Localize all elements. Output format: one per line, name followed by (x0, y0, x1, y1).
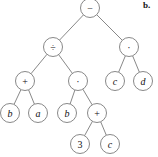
tree-edge (14, 90, 21, 105)
tree-node-variable: a (29, 104, 48, 123)
node-label: + (94, 108, 100, 119)
node-label: c (108, 139, 113, 150)
node-label: · (76, 76, 79, 87)
tree-node-number: 3 (71, 135, 90, 154)
tree-edge (85, 121, 93, 135)
tree-node-variable: c (101, 135, 120, 154)
tree-edge (31, 54, 47, 73)
node-label: · (127, 42, 130, 53)
tree-edge (83, 89, 92, 105)
panel-label: b. (143, 0, 150, 10)
node-label: c (113, 76, 118, 87)
expression-tree-diagram: −÷·+·cdbab+3c b. (0, 0, 158, 157)
tree-node-operator: + (16, 72, 35, 91)
node-label: + (22, 76, 28, 87)
tree-edge (119, 56, 126, 72)
tree-edge (29, 90, 35, 104)
node-label: 3 (78, 139, 83, 150)
tree-node-variable: c (106, 72, 125, 91)
tree-node-operator: − (81, 0, 100, 18)
tree-edge (133, 56, 140, 72)
tree-nodes: −÷·+·cdbab+3c (1, 0, 153, 154)
tree-node-operator: · (120, 38, 139, 57)
tree-edge (59, 55, 73, 74)
tree-node-operator: ÷ (44, 38, 63, 57)
node-label: b (65, 108, 70, 119)
node-label: a (36, 108, 41, 119)
tree-edge (101, 122, 107, 135)
tree-node-operator: · (69, 72, 88, 91)
node-label: ÷ (50, 42, 56, 53)
tree-node-variable: b (1, 104, 20, 123)
tree-node-variable: d (134, 72, 153, 91)
node-label: b (8, 108, 13, 119)
tree-node-operator: + (88, 104, 107, 123)
tree-node-variable: b (58, 104, 77, 123)
node-label: − (87, 3, 93, 14)
tree-edge (70, 90, 75, 104)
tree-edge (97, 15, 123, 41)
tree-edge (60, 15, 84, 40)
